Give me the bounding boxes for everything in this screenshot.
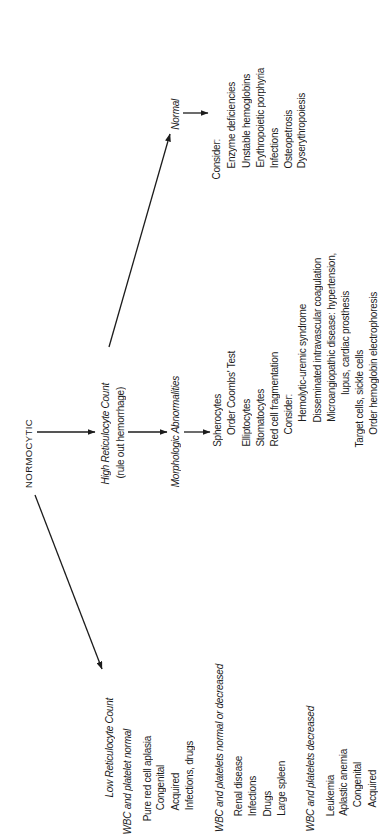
arrow-high-retic-to-normal [109, 134, 170, 347]
group-heading: WBC and platelets decreased [305, 706, 317, 832]
group-line: Congenital [155, 765, 167, 810]
morphologic-line: Order hemoglobin electrophoresis [368, 292, 380, 435]
morphologic-line: lupus, cardiac prosthesis [340, 291, 352, 395]
low-retic-title: Low Reticulocyte Count [104, 698, 116, 798]
high-retic-subtitle: (rule out hemorrhage) [115, 387, 127, 478]
morphologic-line: Red cell fragmentation [269, 352, 281, 447]
normal-consider-item: Osteopetrosis [283, 110, 295, 168]
morphologic-node-label: Morphologic Abnormalities [170, 376, 182, 487]
group-line: Congenital [352, 762, 364, 807]
morphologic-line: Disseminated intravascular coagulation [312, 258, 324, 422]
arrow-normocytic-to-low-retic [35, 495, 102, 669]
group-line: Acquired [170, 773, 182, 810]
group-line: Aplastic anemia [338, 749, 350, 816]
normal-consider-item: Erythropoietic porphyria [255, 68, 267, 168]
group-line: Renal disease [233, 756, 245, 816]
morphologic-line: Hemolytic-uremic syndrome [297, 304, 309, 422]
normal-consider-label: Consider: [211, 139, 223, 180]
group-line: Acquired [367, 770, 379, 807]
group-line: Infections, drugs [184, 741, 196, 810]
group-line: Drugs [262, 791, 274, 816]
morphologic-line: Consider: [283, 394, 295, 435]
group-line: Infections [247, 776, 259, 816]
morphologic-line: Spherocytes [212, 394, 224, 447]
high-retic-title: High Reticulocyte Count [100, 383, 112, 485]
root-node-label: NORMOCYTIC [23, 419, 35, 488]
group-heading: WBC and platelet normal [122, 729, 134, 834]
morphologic-line: Stomatocytes [255, 389, 267, 447]
normal-consider-item: Dyserythropoiesis [296, 93, 308, 168]
normal-consider-item: Enzyme deficiencies [226, 82, 238, 168]
group-line: Leukemia [325, 775, 337, 816]
group-line: Large spleen [276, 761, 288, 816]
group-heading: WBC and platelets normal or decreased [214, 664, 226, 832]
group-line: Pure red cell aplasia [142, 736, 154, 821]
normal-consider-item: Infections [269, 128, 281, 168]
normal-node-label: Normal [170, 99, 182, 130]
normocytic-flowchart: NORMOCYTIC High Reticulocyte Count (rule… [0, 0, 384, 840]
morphologic-line: Microangiopathic disease: hypertension, [326, 253, 338, 422]
morphologic-line: Elliptocytes [241, 399, 253, 447]
morphologic-line: Order Coombs' Test [226, 351, 238, 435]
normal-consider-item: Unstable hemoglobins [241, 74, 253, 168]
morphologic-line: Target cells, sickle cells [354, 350, 366, 447]
